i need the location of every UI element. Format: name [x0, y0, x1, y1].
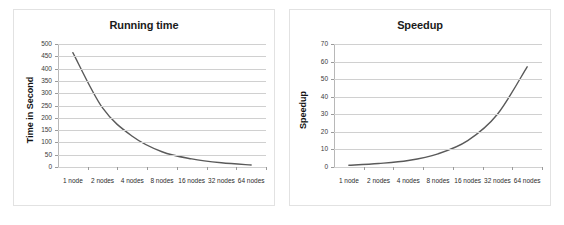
x-tick-mark — [117, 167, 118, 170]
x-tick-mark — [177, 167, 178, 170]
chart-title-speedup: Speedup — [290, 19, 550, 31]
x-tick-label: 16 nodes — [454, 178, 481, 185]
gridline — [58, 130, 266, 131]
y-tick-label: 150 — [41, 127, 52, 134]
x-tick-label: 1 node — [63, 178, 83, 185]
y-tick-label: 450 — [41, 53, 52, 60]
y-tick-label: 30 — [321, 111, 328, 118]
x-tick-mark — [483, 167, 484, 170]
x-tick-mark — [364, 167, 365, 170]
y-tick-label: 0 — [48, 164, 52, 171]
x-tick-mark — [88, 167, 89, 170]
y-tick-label: 250 — [41, 102, 52, 109]
x-tick-label: 2 nodes — [367, 178, 390, 185]
x-tick-label: 64 nodes — [238, 178, 265, 185]
x-tick-mark — [423, 167, 424, 170]
y-tick-mark — [55, 81, 58, 82]
x-tick-mark — [542, 167, 543, 170]
y-tick-mark — [331, 114, 334, 115]
y-tick-label: 500 — [41, 41, 52, 48]
y-tick-label: 60 — [321, 58, 328, 65]
x-tick-label: 8 nodes — [426, 178, 449, 185]
x-tick-label: 32 nodes — [484, 178, 511, 185]
y-tick-mark — [55, 142, 58, 143]
x-tick-label: 1 node — [339, 178, 359, 185]
gridline — [58, 106, 266, 107]
gridline — [334, 167, 542, 168]
gridline — [58, 142, 266, 143]
gridline — [58, 155, 266, 156]
x-tick-label: 32 nodes — [208, 178, 235, 185]
y-tick-mark — [55, 106, 58, 107]
x-tick-label: 64 nodes — [514, 178, 541, 185]
y-tick-mark — [55, 155, 58, 156]
x-tick-mark — [512, 167, 513, 170]
y-tick-mark — [55, 167, 58, 168]
y-axis-label-running-time: Time in Second — [25, 70, 35, 150]
gridline — [334, 97, 542, 98]
gridline — [58, 44, 266, 45]
x-tick-label: 4 nodes — [397, 178, 420, 185]
chart-speedup: Speedup Speedup 0102030405060701 node2 n… — [289, 9, 551, 206]
y-tick-mark — [331, 149, 334, 150]
y-tick-mark — [55, 130, 58, 131]
y-tick-label: 10 — [321, 146, 328, 153]
x-tick-mark — [147, 167, 148, 170]
x-tick-label: 4 nodes — [121, 178, 144, 185]
y-tick-label: 200 — [41, 115, 52, 122]
gridline — [334, 44, 542, 45]
gridline — [334, 149, 542, 150]
y-tick-label: 100 — [41, 139, 52, 146]
y-tick-mark — [331, 167, 334, 168]
chart-running-time: Running time Time in Second 050100150200… — [13, 9, 275, 206]
plot-area-running-time: 0501001502002503003504004505001 node2 no… — [58, 44, 266, 167]
x-tick-label: 8 nodes — [150, 178, 173, 185]
y-tick-label: 50 — [321, 76, 328, 83]
x-tick-mark — [393, 167, 394, 170]
y-tick-mark — [55, 44, 58, 45]
y-tick-label: 70 — [321, 41, 328, 48]
y-tick-mark — [331, 79, 334, 80]
gridline — [58, 93, 266, 94]
y-tick-label: 40 — [321, 93, 328, 100]
y-tick-label: 50 — [45, 151, 52, 158]
y-tick-mark — [55, 93, 58, 94]
x-tick-mark — [453, 167, 454, 170]
x-tick-mark — [236, 167, 237, 170]
gridline — [334, 132, 542, 133]
gridline — [334, 79, 542, 80]
y-axis-label-speedup: Speedup — [298, 80, 308, 140]
y-tick-label: 20 — [321, 129, 328, 136]
gridline — [58, 118, 266, 119]
y-tick-label: 400 — [41, 65, 52, 72]
charts-figure: Running time Time in Second 050100150200… — [0, 0, 564, 225]
plot-area-speedup: 0102030405060701 node2 nodes4 nodes8 nod… — [334, 44, 542, 167]
gridline — [334, 62, 542, 63]
gridline — [58, 167, 266, 168]
y-tick-label: 300 — [41, 90, 52, 97]
x-tick-mark — [207, 167, 208, 170]
y-tick-label: 350 — [41, 78, 52, 85]
data-series-path — [349, 67, 527, 165]
x-tick-label: 16 nodes — [178, 178, 205, 185]
gridline — [334, 114, 542, 115]
y-tick-mark — [331, 97, 334, 98]
y-tick-mark — [331, 62, 334, 63]
y-tick-label: 0 — [324, 164, 328, 171]
chart-title-running-time: Running time — [14, 19, 274, 31]
y-tick-mark — [55, 69, 58, 70]
x-tick-mark — [266, 167, 267, 170]
x-tick-label: 2 nodes — [91, 178, 114, 185]
y-tick-mark — [331, 132, 334, 133]
gridline — [58, 56, 266, 57]
y-tick-mark — [331, 44, 334, 45]
gridline — [58, 69, 266, 70]
y-tick-mark — [55, 118, 58, 119]
gridline — [58, 81, 266, 82]
y-tick-mark — [55, 56, 58, 57]
